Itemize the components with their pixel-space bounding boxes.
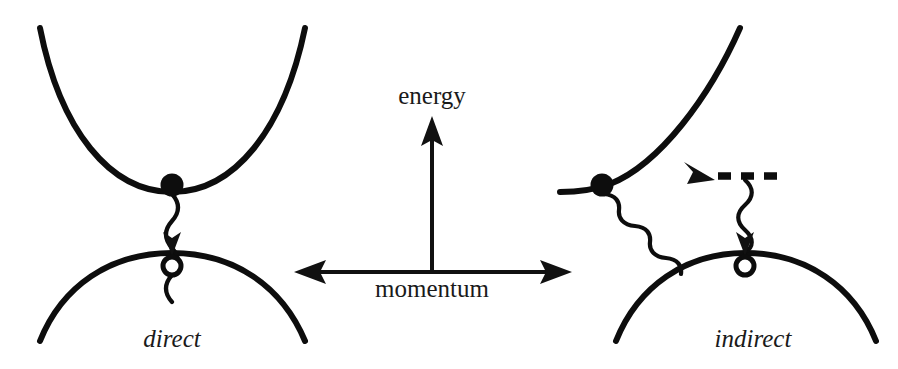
axes-group: energy momentum [294,82,572,302]
indirect-photon-squiggle [604,194,681,274]
direct-hole-circle [163,257,181,275]
momentum-axis-label: momentum [375,275,489,302]
indirect-hole-circle [736,257,754,275]
panel-direct: direct [40,28,305,352]
indirect-electron-dot [591,174,614,197]
panel-indirect: indirect [560,28,876,352]
indirect-photon-arrowhead-icon [684,162,715,184]
direct-electron-dot [161,174,184,197]
direct-conduction-band-curve [40,28,305,192]
indirect-conduction-band-curve [560,28,740,192]
band-diagram-canvas: direct energy momentum [0,0,898,369]
panel-label-indirect: indirect [715,325,793,352]
band-structure-figure: direct energy momentum [0,0,898,369]
energy-axis-label: energy [398,82,466,109]
panel-label-direct: direct [143,325,201,352]
